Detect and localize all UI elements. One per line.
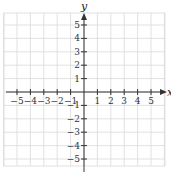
x-tick-label: 5 <box>148 96 154 106</box>
x-tick-label: −5 <box>10 96 24 106</box>
y-axis-label: y <box>80 0 88 13</box>
y-tick-label: 2 <box>74 60 80 70</box>
y-tick-label: −2 <box>67 114 80 124</box>
y-tick-label: −4 <box>67 141 81 151</box>
y-tick-label: −1 <box>67 100 80 110</box>
y-tick-label: 1 <box>74 74 80 84</box>
x-tick-label: 2 <box>108 96 114 106</box>
coordinate-plane: −5−4−3−2−11234554321−1−2−3−4−5 x y <box>0 0 171 177</box>
x-axis-label: x <box>167 86 171 99</box>
x-tick-label: −4 <box>24 96 38 106</box>
x-tick-label: −2 <box>51 96 64 106</box>
y-tick-label: 5 <box>74 20 80 30</box>
x-tick-label: −3 <box>37 96 51 106</box>
x-tick-label: 3 <box>121 96 127 106</box>
y-tick-label: 3 <box>74 47 80 57</box>
y-axis-arrow-icon <box>81 13 87 20</box>
y-tick-label: −3 <box>67 127 81 137</box>
x-tick-label: 4 <box>135 96 141 106</box>
y-tick-label: 4 <box>74 33 80 43</box>
x-tick-label: 1 <box>95 96 101 106</box>
y-tick-label: −5 <box>67 154 81 164</box>
x-axis-arrow-icon <box>160 89 167 95</box>
